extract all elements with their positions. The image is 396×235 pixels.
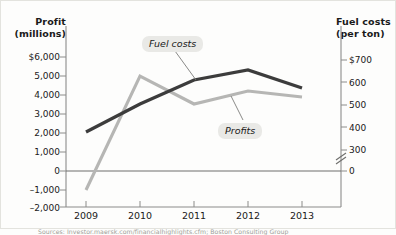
series-label-fuel-costs: Fuel costs — [142, 36, 203, 52]
plot-area — [0, 0, 396, 235]
leader-line-profits — [231, 96, 243, 120]
left-axis-ticks — [60, 57, 66, 207]
chart-figure: Profit (millions) Fuel costs (per ton) $… — [0, 0, 396, 235]
series-label-profits: Profits — [218, 123, 262, 139]
leader-line-fuel-costs — [175, 51, 196, 80]
series-line-profits — [86, 76, 302, 190]
x-axis-ticks — [86, 201, 302, 207]
source-note: Sources: Investor.maersk.com/financialhi… — [38, 228, 288, 235]
